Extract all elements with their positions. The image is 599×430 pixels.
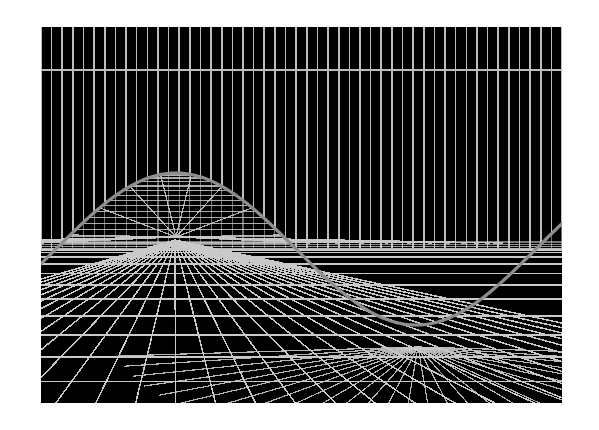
trough-radial-fan bbox=[119, 347, 562, 403]
wireframe-render-viewport bbox=[41, 27, 562, 403]
crest-fan-line bbox=[100, 208, 176, 237]
crest-fan-line bbox=[176, 208, 252, 237]
trough-fan-line bbox=[159, 347, 418, 395]
wireframe-scene bbox=[41, 27, 562, 403]
page-root bbox=[0, 0, 599, 430]
